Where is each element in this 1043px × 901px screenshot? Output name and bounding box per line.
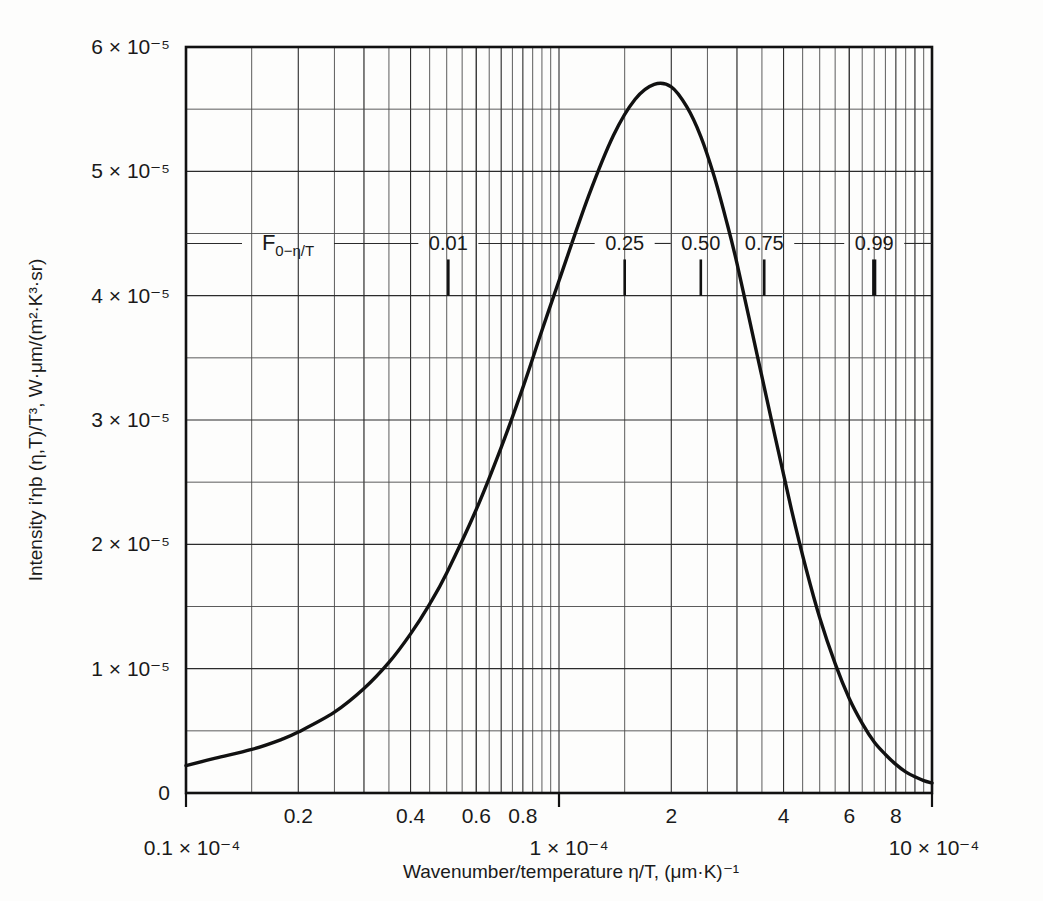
y-axis-tick-label: 6 × 10⁻⁵ [91,35,170,58]
x-axis-tick-label: 8 [890,804,902,827]
y-axis-tick-label: 2 × 10⁻⁵ [91,532,170,555]
x-axis-tick-label: 0.2 [284,804,313,827]
blackbody-intensity-chart: 0.010.250.500.750.99 F0−η/T 6 × 10⁻⁵5 × … [0,0,1043,901]
x-axis-start-label: 0.1 × 10⁻⁴ [144,836,241,859]
fraction-label: 0.25 [605,232,644,254]
x-axis-tick-label: 6 [843,804,855,827]
x-axis-end-label: 10 × 10⁻⁴ [889,836,980,859]
fraction-label: 0.75 [745,232,784,254]
fraction-label: 0.99 [855,232,894,254]
x-axis-tick-label: 4 [778,804,790,827]
y-axis-tick-label: 0 [158,781,170,804]
y-axis-title: Intensity i′ηb (η,T)/T³, W·μm/(m²·K³·sr) [25,259,46,582]
y-axis-tick-label: 5 × 10⁻⁵ [91,159,170,182]
chart-background [0,0,1043,901]
figure-page: 0.010.250.500.750.99 F0−η/T 6 × 10⁻⁵5 × … [0,0,1043,901]
y-axis-tick-label: 3 × 10⁻⁵ [91,408,170,431]
x-axis-tick-label: 0.4 [396,804,426,827]
y-axis-tick-label: 4 × 10⁻⁵ [91,284,170,307]
fraction-label: 0.01 [429,232,468,254]
x-axis-mid-label: 1 × 10⁻⁴ [530,836,609,859]
fraction-label: 0.50 [681,232,720,254]
x-axis-tick-label: 2 [665,804,677,827]
x-axis-title: Wavenumber/temperature η/T, (μm·K)⁻¹ [403,861,739,882]
y-axis-tick-label: 1 × 10⁻⁵ [91,657,170,680]
x-axis-tick-label: 0.8 [508,804,537,827]
x-axis-tick-label: 0.6 [462,804,491,827]
